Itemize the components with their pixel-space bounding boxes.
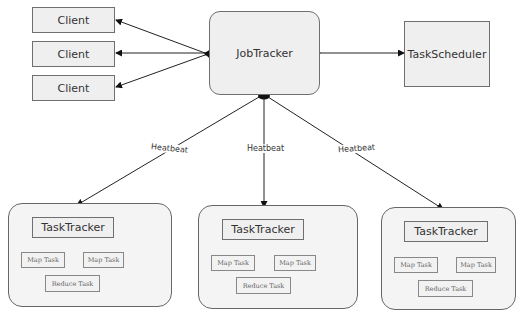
map-task-label: Map Task — [217, 259, 249, 267]
client-label: Client — [58, 14, 90, 27]
reduce-task-1: Reduce Task — [45, 275, 100, 292]
taskscheduler-node: TaskScheduler — [404, 21, 490, 87]
reduce-task-label: Reduce Task — [425, 285, 467, 293]
tasktracker-label: TaskTracker — [41, 221, 104, 234]
tasktracker-node-1: TaskTracker — [32, 217, 114, 238]
map-task-label: Map Task — [460, 261, 492, 269]
map-task-2a: Map Task — [211, 255, 255, 271]
map-task-3b: Map Task — [456, 257, 496, 273]
map-task-1a: Map Task — [21, 252, 65, 268]
map-task-2b: Map Task — [274, 255, 316, 271]
reduce-task-2: Reduce Task — [236, 277, 291, 294]
reduce-task-label: Reduce Task — [52, 280, 94, 288]
client-label: Client — [58, 48, 90, 61]
client-node-2: Client — [32, 41, 115, 67]
tasktracker-node-2: TaskTracker — [222, 219, 304, 240]
map-task-1b: Map Task — [83, 252, 124, 268]
map-task-3a: Map Task — [394, 257, 438, 273]
map-task-label: Map Task — [88, 256, 120, 264]
heartbeat-label-2: Heatbeat — [246, 144, 285, 153]
client-node-1: Client — [32, 7, 115, 33]
jobtracker-node: JobTracker — [209, 11, 320, 95]
map-task-label: Map Task — [400, 261, 432, 269]
map-task-label: Map Task — [27, 256, 59, 264]
client-label: Client — [58, 82, 90, 95]
tasktracker-label: TaskTracker — [414, 225, 477, 238]
reduce-task-label: Reduce Task — [243, 282, 285, 290]
taskscheduler-label: TaskScheduler — [408, 48, 487, 61]
tasktracker-label: TaskTracker — [231, 223, 294, 236]
client-node-3: Client — [32, 75, 115, 101]
jobtracker-label: JobTracker — [236, 47, 293, 60]
map-task-label: Map Task — [279, 259, 311, 267]
reduce-task-3: Reduce Task — [418, 280, 473, 297]
edge-client1-jobtracker — [116, 20, 205, 53]
tasktracker-node-3: TaskTracker — [404, 221, 488, 242]
edge-client3-jobtracker — [116, 55, 205, 87]
